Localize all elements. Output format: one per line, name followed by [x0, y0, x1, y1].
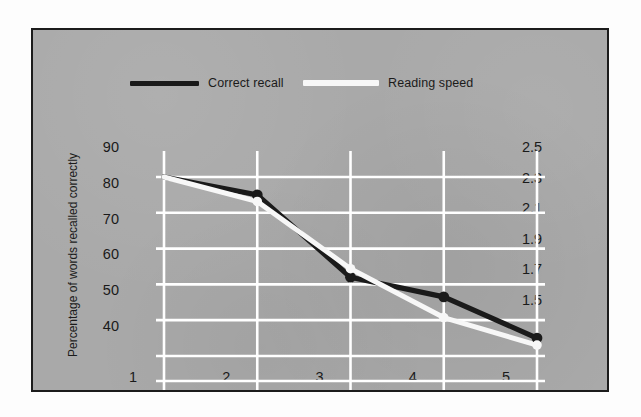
- y-tick-right-1.7: 1.7: [522, 261, 556, 277]
- x-tick-1: 1: [123, 369, 143, 385]
- y-tick-left-40: 40: [85, 318, 119, 334]
- x-tick-3: 3: [310, 369, 330, 385]
- y-tick-left-60: 60: [85, 246, 119, 262]
- y-tick-right-1.5: 1.5: [522, 292, 556, 308]
- y-tick-right-2.5: 2.5: [522, 139, 556, 155]
- x-tick-4: 4: [403, 369, 423, 385]
- legend-item-reading-speed: Reading speed: [303, 72, 473, 94]
- x-tick-5: 5: [496, 369, 516, 385]
- series-markers: [252, 189, 543, 349]
- legend-label-reading-speed: Reading speed: [388, 76, 473, 90]
- y-axis-left-title: Percentage of words recalled correctly: [66, 157, 80, 357]
- line-swatch-speed-icon: [303, 80, 379, 86]
- legend-item-correct-recall: Correct recall: [130, 72, 284, 94]
- y-tick-left-80: 80: [85, 175, 119, 191]
- y-tick-left-50: 50: [85, 282, 119, 298]
- y-tick-left-90: 90: [85, 139, 119, 155]
- chart-legend: Correct recall Reading speed: [33, 72, 607, 94]
- gridlines: [156, 151, 545, 391]
- x-tick-2: 2: [216, 369, 236, 385]
- y-tick-right-2.1: 2.1: [522, 200, 556, 216]
- legend-label-correct-recall: Correct recall: [208, 76, 284, 90]
- line-swatch-recall-icon: [130, 81, 199, 86]
- y-tick-right-2.3: 2.3: [522, 170, 556, 186]
- y-tick-right-1.9: 1.9: [522, 231, 556, 247]
- chart-panel: Correct recall Reading speed Percentage …: [31, 28, 609, 392]
- y-tick-left-70: 70: [85, 211, 119, 227]
- series-lines: [164, 177, 537, 345]
- figure-root: Correct recall Reading speed Percentage …: [0, 0, 641, 417]
